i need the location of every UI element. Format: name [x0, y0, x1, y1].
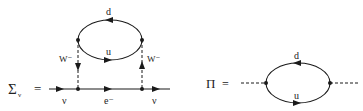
u-quark-label: u: [294, 90, 299, 101]
electron-arrow-icon: [104, 86, 112, 92]
feynman-diagrams: Σ ν = ν e⁻ ν W⁻ W⁻ d u Π =: [0, 0, 363, 111]
vertex-dot-icon: [328, 81, 332, 85]
electron-label: e⁻: [104, 95, 114, 106]
self-energy-diagram: Σ ν = ν e⁻ ν W⁻ W⁻ d u: [8, 6, 170, 106]
outgoing-neutrino-arrow-icon: [152, 86, 160, 92]
polarization-diagram: Π = d u: [206, 50, 358, 106]
pi-symbol: Π: [206, 76, 215, 91]
d-quark-label: d: [294, 50, 299, 61]
incoming-neutrino-label: ν: [62, 95, 67, 106]
sigma-subscript: ν: [18, 91, 21, 99]
equals-sign: =: [222, 77, 229, 91]
u-quark-arrow-icon: [104, 57, 112, 63]
vertex-dot-icon: [76, 87, 80, 91]
right-w-up-arrow-icon: [139, 61, 145, 69]
vertex-dot-icon: [140, 87, 144, 91]
left-w-down-arrow-icon: [75, 63, 81, 71]
vertex-dot-icon: [264, 81, 268, 85]
sigma-symbol: Σ: [8, 81, 17, 97]
left-w-label: W⁻: [59, 54, 72, 64]
d-quark-arrow-icon: [105, 17, 113, 23]
incoming-neutrino-arrow-icon: [56, 86, 64, 92]
vertex-dot-icon: [140, 38, 144, 42]
d-quark-label: d: [106, 6, 111, 17]
equals-sign: =: [34, 81, 41, 96]
right-w-label: W⁻: [147, 54, 160, 64]
u-quark-label: u: [106, 46, 111, 57]
outgoing-neutrino-label: ν: [152, 95, 157, 106]
vertex-dot-icon: [76, 38, 80, 42]
